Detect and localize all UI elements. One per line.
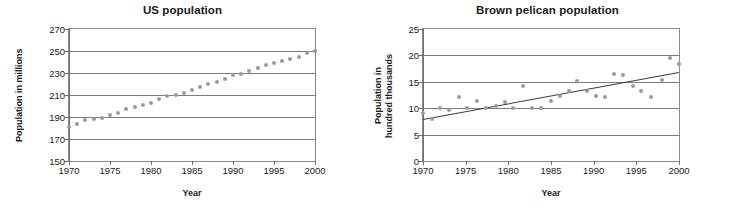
data-point xyxy=(530,106,534,110)
x-axis-tick-label: 1975 xyxy=(455,161,476,176)
x-axis-tick-label: 1990 xyxy=(583,161,604,176)
data-point xyxy=(639,89,643,93)
x-axis-tick-label: 1995 xyxy=(263,161,284,176)
data-point xyxy=(494,104,498,108)
data-point xyxy=(631,84,635,88)
trend-line xyxy=(423,72,679,120)
gridline-horizontal xyxy=(69,117,315,118)
data-point xyxy=(141,103,145,107)
data-point xyxy=(247,69,251,73)
chart-panel-us-population: US population Population in millions 150… xyxy=(0,0,365,210)
x-axis-label-brown-pelican-population: Year xyxy=(422,188,680,198)
data-point xyxy=(157,97,161,101)
data-point xyxy=(313,49,317,53)
data-point xyxy=(165,94,169,98)
data-point xyxy=(621,73,625,77)
data-point xyxy=(231,73,235,77)
data-point xyxy=(100,116,104,120)
gridline-horizontal xyxy=(69,139,315,140)
x-axis-tick-label: 2000 xyxy=(304,161,325,176)
data-point xyxy=(484,106,488,110)
data-point xyxy=(297,55,301,59)
data-point xyxy=(567,89,571,93)
data-point xyxy=(92,117,96,121)
y-axis-label-brown-pelican-population: Population in hundred thousands xyxy=(373,34,397,158)
y-axis-line xyxy=(423,29,424,161)
x-axis-tick-label: 1970 xyxy=(58,161,79,176)
x-axis-tick-label: 1985 xyxy=(181,161,202,176)
data-point xyxy=(668,56,672,60)
data-point xyxy=(280,59,284,63)
data-point xyxy=(83,118,87,122)
data-point xyxy=(612,72,616,76)
x-axis-tick-label: 1975 xyxy=(99,161,120,176)
two-chart-figure: US population Population in millions 150… xyxy=(0,0,730,210)
data-point xyxy=(475,99,479,103)
gridline-horizontal xyxy=(423,108,679,109)
data-point xyxy=(206,82,210,86)
chart-title-us-population: US population xyxy=(0,4,365,16)
y-axis-label-us-population: Population in millions xyxy=(14,36,26,154)
chart-title-brown-pelican-population: Brown pelican population xyxy=(365,4,730,16)
data-point xyxy=(421,111,425,115)
y-axis-line xyxy=(69,29,70,161)
data-point xyxy=(256,66,260,70)
data-point xyxy=(521,84,525,88)
data-point xyxy=(116,111,120,115)
data-point xyxy=(133,105,137,109)
data-point xyxy=(649,95,653,99)
data-point xyxy=(438,106,442,110)
gridline-horizontal xyxy=(423,82,679,83)
gridline-horizontal xyxy=(69,73,315,74)
plot-area-us-population: 1501701902102302502701970197519801985199… xyxy=(68,28,316,162)
x-axis-tick-label: 1995 xyxy=(626,161,647,176)
data-point xyxy=(465,106,469,110)
x-axis-tick-label: 1980 xyxy=(140,161,161,176)
data-point xyxy=(549,99,553,103)
data-point xyxy=(272,61,276,65)
data-point xyxy=(75,122,79,126)
x-axis-label-us-population: Year xyxy=(68,188,316,198)
gridline-horizontal xyxy=(69,51,315,52)
data-point xyxy=(594,94,598,98)
x-axis-tick-label: 1980 xyxy=(498,161,519,176)
x-axis-tick-label: 1990 xyxy=(222,161,243,176)
data-point xyxy=(575,79,579,83)
data-point xyxy=(108,113,112,117)
data-point xyxy=(457,95,461,99)
x-axis-tick-label: 1985 xyxy=(540,161,561,176)
data-point xyxy=(223,77,227,81)
data-point xyxy=(305,51,309,55)
data-point xyxy=(174,93,178,97)
data-point xyxy=(539,106,543,110)
x-axis-tick-label: 2000 xyxy=(668,161,689,176)
data-point xyxy=(182,91,186,95)
data-point xyxy=(67,125,71,129)
data-point xyxy=(430,117,434,121)
data-point xyxy=(585,89,589,93)
data-point xyxy=(503,100,507,104)
data-point xyxy=(264,63,268,67)
data-point xyxy=(447,108,451,112)
data-point xyxy=(198,85,202,89)
plot-area-brown-pelican-population: 05101520251970197519801985199019952000 xyxy=(422,28,680,162)
data-point xyxy=(215,80,219,84)
chart-panel-brown-pelican-population: Brown pelican population Population in h… xyxy=(365,0,730,210)
gridline-horizontal xyxy=(423,135,679,136)
data-point xyxy=(660,78,664,82)
data-point xyxy=(239,72,243,76)
data-point xyxy=(149,101,153,105)
data-point xyxy=(288,57,292,61)
data-point xyxy=(124,107,128,111)
data-point xyxy=(677,62,681,66)
gridline-horizontal xyxy=(69,95,315,96)
gridline-horizontal xyxy=(423,55,679,56)
data-point xyxy=(511,106,515,110)
data-point xyxy=(558,94,562,98)
x-axis-tick-label: 1970 xyxy=(412,161,433,176)
data-point xyxy=(603,95,607,99)
data-point xyxy=(190,88,194,92)
